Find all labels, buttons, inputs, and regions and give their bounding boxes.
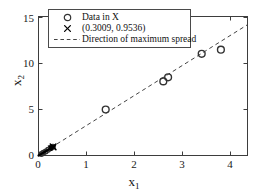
legend-label-eigen-point: (0.3009, 0.9536) (82, 23, 145, 34)
legend-label-data-in-x: Data in X (82, 12, 119, 23)
x-tick-label-3: 3 (179, 159, 185, 170)
y-tick-label-0: 0 (20, 150, 34, 161)
y-tick-label-5: 5 (20, 104, 34, 115)
scatter-plot-figure: 0 1 2 3 4 0 5 10 15 x1 x2 Data in X (0, 0, 261, 194)
y-tick-label-10: 10 (14, 58, 34, 69)
x-axis-title: x1 (129, 175, 140, 188)
y-axis-title: x2 (10, 75, 23, 86)
x-axis-title-base: x (129, 174, 136, 189)
y-axis-title-base: x (9, 80, 24, 87)
legend-entry-data-in-x: Data in X (52, 12, 187, 23)
y-tick-label-15: 15 (14, 13, 34, 24)
y-axis-title-subscript: 2 (16, 75, 26, 80)
legend-entry-eigen-point: (0.3009, 0.9536) (52, 23, 187, 34)
chart-legend: Data in X (0.3009, 0.9536) Direction of … (48, 9, 191, 48)
legend-label-max-spread: Direction of maximum spread (82, 34, 196, 45)
x-tick-label-2: 2 (131, 159, 137, 170)
legend-entry-max-spread: Direction of maximum spread (52, 34, 187, 45)
x-marker-icon (52, 23, 82, 34)
circle-marker-icon (52, 12, 82, 23)
dashed-line-icon (52, 34, 82, 45)
x-tick-label-0: 0 (35, 159, 41, 170)
x-tick-label-4: 4 (227, 159, 233, 170)
x-axis-title-subscript: 1 (135, 181, 140, 191)
x-tick-label-1: 1 (83, 159, 89, 170)
